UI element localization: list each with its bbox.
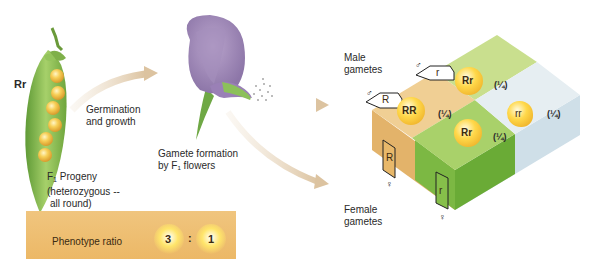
male-symbol-icon-r: ♂ [415,60,422,70]
cell-rr-genotype: rr [515,108,522,119]
cell-rr-fraction: (¼) [547,109,561,119]
female-symbol-icon-R: ♀ [386,179,393,189]
cell-Rr-top-fraction: (¼) [494,80,508,90]
cell-RR-fraction: (¼) [438,109,452,119]
male-symbol-icon-R: ♂ [366,88,373,98]
cell-RR-genotype: RR [402,105,416,116]
cell-Rr-bottom-genotype: Rr [461,127,472,138]
cell-Rr-bottom-fraction: (¼) [493,132,507,142]
female-symbol-icon-r: ♀ [439,212,446,222]
female-gamete-R: R [386,152,393,163]
male-gamete-R: R [382,94,389,105]
cell-Rr-top-genotype: Rr [462,75,473,86]
female-gamete-r: r [439,185,442,196]
male-gamete-r: r [436,67,439,78]
